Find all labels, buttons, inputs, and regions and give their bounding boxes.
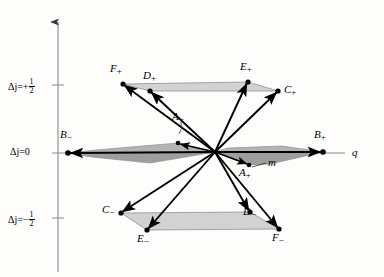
axis-group	[52, 22, 345, 272]
vector-F-plus	[124, 85, 215, 152]
tick-label-plus-half: Δj=+12	[8, 78, 35, 96]
dot-F-plus	[120, 81, 125, 86]
dot-E-minus	[144, 227, 149, 232]
label-F-minus: F−	[272, 232, 284, 245]
label-D-plus: D+	[143, 70, 156, 83]
dot-C-minus	[118, 210, 123, 215]
label-E-minus: E−	[137, 233, 149, 246]
vector-C-plus	[215, 92, 277, 152]
vector-B-minus	[70, 152, 215, 153]
label-A-plus: A+	[239, 167, 251, 180]
tick-label-minus-half: Δj=−12	[8, 211, 35, 229]
label-B-minus: B−	[60, 129, 72, 142]
dot-B-plus	[320, 149, 326, 155]
label-C-minus: C−	[102, 204, 114, 217]
label-D-minus: D−	[243, 206, 256, 219]
tick-label-zero: Δj=0	[10, 147, 30, 157]
dot-A-minus	[176, 141, 181, 146]
m-label: m	[268, 157, 276, 168]
label-E-plus: E+	[240, 61, 252, 74]
vector-diagram: Δj=+12 Δj=0 Δj=−12 q m F+ D+ E+ C+ B− B+…	[0, 0, 384, 277]
label-F-plus: F+	[110, 63, 122, 76]
label-A-minus: A−	[172, 111, 184, 124]
figure-canvas	[0, 0, 384, 277]
upper-plane	[123, 82, 278, 91]
label-C-plus: C+	[284, 84, 296, 97]
dot-C-plus	[275, 88, 280, 93]
vector-E-plus	[215, 83, 247, 152]
dot-D-plus	[147, 88, 152, 93]
dot-B-minus	[65, 150, 71, 156]
q-axis-label: q	[352, 147, 358, 158]
dot-E-plus	[245, 79, 250, 84]
label-B-plus: B+	[314, 129, 326, 142]
